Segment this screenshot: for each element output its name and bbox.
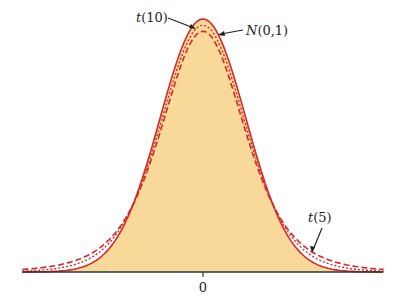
t5-label: t(5) bbox=[308, 210, 332, 225]
t5-arrow bbox=[313, 228, 322, 250]
density-chart: 0 t(10) N(0,1) t(5) bbox=[0, 0, 403, 304]
normal-label: N(0,1) bbox=[245, 23, 288, 38]
zero-tick-label: 0 bbox=[199, 280, 207, 295]
normal-area-fill bbox=[22, 19, 383, 272]
t10-label: t(10) bbox=[136, 10, 168, 25]
